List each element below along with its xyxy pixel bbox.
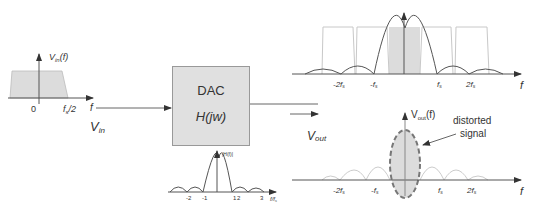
svg-text:-2: -2 <box>186 195 192 201</box>
svg-text:fs: fs <box>437 80 442 89</box>
svg-text:-fs: -fs <box>371 186 379 195</box>
svg-text:-2fs: -2fs <box>333 186 345 195</box>
sampled-spectrum-plot: -2fs -fs fs 2fs f <box>292 13 524 91</box>
input-signal-label: Vin <box>90 119 105 135</box>
dac-transfer-function: H(jw) <box>173 109 249 124</box>
diagram-canvas: Vin(f) 0 fs/2 f Vin Vout |H(f)| -2 -1 1 … <box>0 0 533 209</box>
svg-text:-fs: -fs <box>370 80 378 89</box>
dac-title: DAC <box>173 83 249 98</box>
svg-text:2fs: 2fs <box>466 186 477 195</box>
output-spectrum-plot: Vout(f) distorted signal -2fs -fs fs 2fs… <box>292 109 524 198</box>
svg-text:3: 3 <box>260 195 264 201</box>
svg-text:2: 2 <box>237 195 241 201</box>
output-signal-label: Vout <box>307 129 327 143</box>
annotation-line1: distorted <box>453 115 491 126</box>
dac-response-plot: |H(f)| -2 -1 1 2 3 f/fs <box>168 151 277 203</box>
dac-response-label: |H(f)| <box>222 151 233 157</box>
dac-response-axis-label: f/fs <box>270 196 277 203</box>
svg-text:f: f <box>520 185 524 197</box>
svg-text:2fs: 2fs <box>465 80 476 89</box>
annotation-arrow <box>423 134 456 145</box>
svg-text:-1: -1 <box>202 195 208 201</box>
svg-text:-2fs: -2fs <box>333 80 345 89</box>
output-spectrum-label: Vout(f) <box>411 109 435 121</box>
input-spectrum: Vin(f) 0 fs/2 f <box>8 52 94 115</box>
input-spectrum-label: Vin(f) <box>49 52 68 63</box>
svg-text:fs: fs <box>438 186 443 195</box>
input-tick-zero: 0 <box>31 104 36 114</box>
annotation-line2: signal <box>460 128 486 139</box>
dac-block: DAC H(jw) <box>172 66 250 146</box>
svg-text:f: f <box>520 79 524 91</box>
input-axis-label: f <box>90 102 94 113</box>
input-tick-half: fs/2 <box>63 104 76 115</box>
